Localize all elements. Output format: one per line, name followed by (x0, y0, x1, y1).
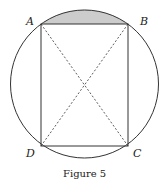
geometry-figure: A B C D Figure 5 (0, 0, 167, 180)
label-a: A (25, 15, 34, 28)
figure-caption: Figure 5 (63, 168, 106, 179)
label-c: C (133, 147, 142, 160)
label-d: D (25, 147, 35, 160)
circle (11, 10, 159, 158)
label-b: B (139, 15, 148, 28)
